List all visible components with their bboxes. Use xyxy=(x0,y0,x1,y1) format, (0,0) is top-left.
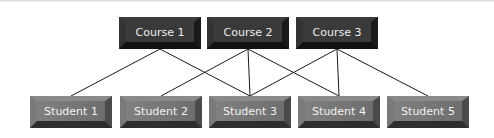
course-label: Course 2 xyxy=(214,22,282,42)
student-label: Student 4 xyxy=(305,101,373,121)
course-label: Course 3 xyxy=(303,22,371,42)
student-label: Student 1 xyxy=(37,101,105,121)
course-node-1: Course 1 xyxy=(119,17,201,49)
edge-c2-s3 xyxy=(248,49,250,96)
edge-c3-s4 xyxy=(337,49,339,96)
student-label: Student 5 xyxy=(394,101,462,121)
student-label: Student 3 xyxy=(216,101,284,121)
course-node-3: Course 3 xyxy=(296,17,378,49)
student-node-3: Student 3 xyxy=(209,96,291,128)
edge-c3-s3 xyxy=(250,49,337,96)
student-label: Student 2 xyxy=(127,101,195,121)
edge-c1-s1 xyxy=(71,49,160,96)
course-label: Course 1 xyxy=(126,22,194,42)
course-node-2: Course 2 xyxy=(207,17,289,49)
student-node-5: Student 5 xyxy=(387,96,469,128)
student-node-1: Student 1 xyxy=(30,96,112,128)
student-node-2: Student 2 xyxy=(120,96,202,128)
edge-c3-s5 xyxy=(337,49,428,96)
student-node-4: Student 4 xyxy=(298,96,380,128)
